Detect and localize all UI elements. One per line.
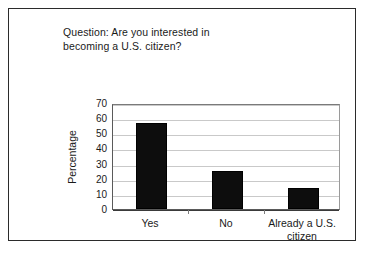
x-axis-category-label: Already a U.S. citizen bbox=[256, 217, 348, 242]
y-axis-tick-labels: 706050403020100 bbox=[85, 98, 107, 210]
bars-layer bbox=[113, 105, 339, 209]
x-axis-ticks bbox=[112, 210, 340, 214]
y-axis-tick-label: 50 bbox=[85, 129, 107, 139]
x-axis-tick bbox=[264, 210, 265, 214]
y-axis-title: Percentage bbox=[65, 105, 79, 209]
x-axis-category-labels: YesNoAlready a U.S. citizen bbox=[112, 217, 340, 251]
y-axis-tick-label: 10 bbox=[85, 190, 107, 200]
y-axis-tick-label: 30 bbox=[85, 160, 107, 170]
y-axis-title-label: Percentage bbox=[66, 130, 78, 184]
y-axis-tick-label: 70 bbox=[85, 99, 107, 109]
bar bbox=[212, 171, 243, 209]
figure-frame: Question: Are you interested in becoming… bbox=[8, 8, 356, 241]
y-axis-tick-label: 60 bbox=[85, 114, 107, 124]
bar bbox=[136, 123, 167, 209]
bar bbox=[288, 188, 319, 209]
y-axis-tick-label: 40 bbox=[85, 144, 107, 154]
plot-area bbox=[112, 104, 340, 210]
y-axis-tick-label: 20 bbox=[85, 175, 107, 185]
chart-title: Question: Are you interested in becoming… bbox=[63, 26, 303, 53]
y-axis-tick-label: 0 bbox=[85, 205, 107, 215]
x-axis-tick bbox=[188, 210, 189, 214]
